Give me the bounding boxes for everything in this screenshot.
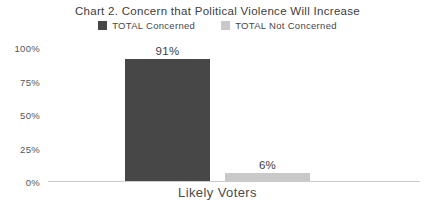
legend-item-concerned: TOTAL Concerned [98, 20, 195, 31]
legend-swatch-concerned-icon [98, 21, 107, 30]
legend-swatch-not-concerned-icon [221, 21, 230, 30]
bar-value-label-not-concerned: 6% [225, 159, 310, 171]
x-axis-label: Likely Voters [0, 185, 435, 200]
legend: TOTAL Concerned TOTAL Not Concerned [0, 20, 435, 31]
chart-title: Chart 2. Concern that Political Violence… [0, 5, 435, 17]
legend-label-not-concerned: TOTAL Not Concerned [235, 20, 337, 31]
bar-total-not-concerned: 6% [225, 173, 310, 181]
bar-total-concerned: 91% [125, 59, 210, 181]
x-axis-line [48, 181, 420, 182]
y-tick-50: 50% [20, 110, 40, 121]
plot-area: 91% 6% [48, 48, 420, 182]
y-tick-25: 25% [20, 143, 40, 154]
legend-item-not-concerned: TOTAL Not Concerned [221, 20, 337, 31]
bar-value-label-concerned: 91% [125, 45, 210, 57]
legend-label-concerned: TOTAL Concerned [112, 20, 195, 31]
y-tick-100: 100% [15, 43, 41, 54]
chart-card: Chart 2. Concern that Political Violence… [0, 0, 435, 202]
y-axis: 100% 75% 50% 25% 0% [0, 48, 40, 182]
y-tick-75: 75% [20, 76, 40, 87]
